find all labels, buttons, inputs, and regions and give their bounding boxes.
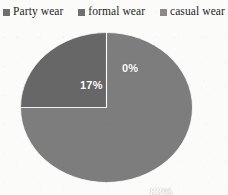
pie-data-label-casual-wear: 83% (150, 187, 173, 195)
pie-chart-svg (20, 32, 193, 183)
square-marker-icon (160, 9, 167, 16)
legend-item-casual-wear[interactable]: casual wear (160, 6, 225, 18)
square-marker-icon (3, 9, 10, 16)
pie-data-label-formal-wear: 17% (80, 80, 103, 91)
legend-item-formal-wear[interactable]: formal wear (78, 6, 145, 18)
legend-label-formal-wear: formal wear (88, 6, 145, 18)
square-marker-icon (78, 9, 85, 16)
legend-item-party-wear[interactable]: Party wear (3, 6, 64, 18)
pie-chart-figure: Party wear formal wear casual wear (0, 0, 228, 195)
pie-data-label-party-wear: 0% (122, 63, 138, 74)
legend-label-party-wear: Party wear (13, 6, 64, 18)
legend-label-casual-wear: casual wear (170, 6, 225, 18)
pie-slice-formal-wear[interactable] (21, 22, 107, 108)
pie-chart-plot-area: 0% 17% 83% (20, 32, 193, 183)
chart-legend: Party wear formal wear casual wear (0, 3, 228, 21)
